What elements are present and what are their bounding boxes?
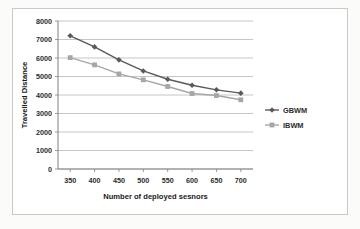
- line-chart-svg: 0100020003000400050006000700080003504004…: [13, 9, 349, 216]
- chart-outer-border: 0100020003000400050006000700080003504004…: [12, 8, 348, 215]
- scanned-page-background: 0100020003000400050006000700080003504004…: [0, 0, 360, 229]
- x-axis-title: Number of deployed sesnors: [103, 192, 208, 201]
- y-axis-tick-label: 8000: [36, 17, 52, 26]
- y-axis-tick-label: 2000: [36, 128, 52, 137]
- y-axis-tick-label: 4000: [36, 91, 52, 100]
- data-point-ibwm: [141, 77, 146, 82]
- data-point-ibwm: [238, 97, 243, 102]
- y-axis-tick-label: 3000: [36, 109, 52, 118]
- data-point-ibwm: [165, 84, 170, 89]
- x-axis-tick-label: 350: [64, 176, 76, 185]
- x-axis-tick-label: 650: [210, 176, 222, 185]
- y-axis-tick-label: 6000: [36, 54, 52, 63]
- y-axis-title: Travelled Distance: [20, 62, 29, 129]
- legend-marker-ibwm: [270, 123, 275, 128]
- x-axis-tick-label: 700: [235, 176, 247, 185]
- x-axis-tick-label: 500: [137, 176, 149, 185]
- x-axis-tick-label: 600: [186, 176, 198, 185]
- legend-label-ibwm: IBWM: [283, 121, 304, 130]
- legend-label-gbwm: GBWM: [283, 106, 307, 115]
- data-point-ibwm: [68, 55, 73, 60]
- y-axis-tick-label: 0: [48, 165, 52, 174]
- data-point-ibwm: [214, 93, 219, 98]
- chart-canvas: 0100020003000400050006000700080003504004…: [13, 9, 347, 214]
- legend-marker-gbwm: [269, 107, 275, 113]
- data-point-ibwm: [117, 72, 122, 77]
- data-point-ibwm: [190, 91, 195, 96]
- y-axis-tick-label: 7000: [36, 35, 52, 44]
- x-axis-tick-label: 450: [113, 176, 125, 185]
- x-axis-tick-label: 550: [162, 176, 174, 185]
- y-axis-tick-label: 5000: [36, 72, 52, 81]
- x-axis-tick-label: 400: [89, 176, 101, 185]
- y-axis-tick-label: 1000: [36, 146, 52, 155]
- data-point-ibwm: [92, 62, 97, 67]
